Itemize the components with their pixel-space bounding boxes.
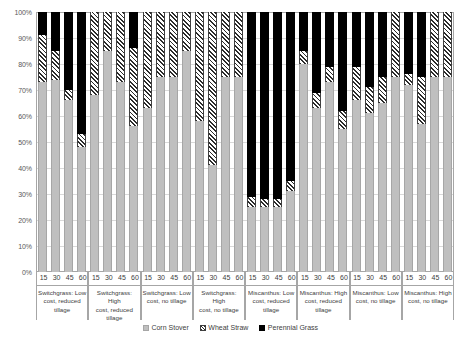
- bar-segment-stover: [338, 129, 347, 272]
- bar-segment-straw: [38, 35, 47, 82]
- bar-segment-straw: [260, 199, 269, 207]
- x-axis-group-label-line: Miscanthus: Low: [247, 289, 295, 297]
- legend-label: Wheat Straw: [208, 324, 248, 331]
- y-tick-label: 50%: [0, 139, 32, 146]
- x-tick-row: 15304560: [37, 272, 87, 286]
- x-tick-label: 30: [206, 274, 220, 281]
- bar-segment-straw: [378, 77, 387, 103]
- x-tick-label: 45: [324, 274, 338, 281]
- x-tick-row: 15304560: [351, 272, 401, 286]
- x-axis-group-label: Miscanthus: Lowcost, reducedtillage: [246, 286, 296, 314]
- bar-segment-stover: [365, 113, 374, 272]
- bar: [338, 12, 347, 272]
- legend-swatch-icon: [143, 325, 149, 331]
- bar-segment-stover: [169, 77, 178, 272]
- bar-segment-grass: [51, 12, 60, 51]
- bar: [430, 12, 439, 272]
- bar: [129, 12, 138, 272]
- legend-item[interactable]: Perennial Grass: [259, 324, 318, 331]
- bar: [103, 12, 112, 272]
- x-tick-label: 30: [154, 274, 168, 281]
- bar-segment-stover: [90, 95, 99, 272]
- x-tick-label: 30: [363, 274, 377, 281]
- x-axis-group: 15304560Miscanthus: Lowcost, reducedtill…: [245, 272, 297, 320]
- bar-segment-stover: [116, 82, 125, 272]
- x-tick-label: 45: [272, 274, 286, 281]
- bar-segment-grass: [260, 12, 269, 199]
- bar-segment-stover: [299, 64, 308, 272]
- x-tick-label: 45: [376, 274, 390, 281]
- bar-segment-stover: [182, 51, 191, 272]
- bar: [221, 12, 230, 272]
- x-axis-group-label-line: Miscanthus: High: [299, 289, 347, 297]
- x-tick-row: 15304560: [298, 272, 348, 286]
- bar-segment-stover: [208, 165, 217, 272]
- bar: [273, 12, 282, 272]
- bar-segment-straw: [182, 12, 191, 51]
- x-axis-group-label: Switchgrass: Highcost, reducedtillage: [89, 286, 139, 322]
- y-tick-label: 20%: [0, 217, 32, 224]
- bar-segment-straw: [195, 12, 204, 121]
- bar-segment-stover: [352, 100, 361, 272]
- x-axis-group-label-line: Switchgrass: High: [195, 289, 243, 306]
- bar-segment-stover: [38, 82, 47, 272]
- x-axis-group-label-line: cost, reduced: [90, 306, 138, 314]
- x-axis-group: 15304560Switchgrass: Lowcost, reducedtil…: [36, 272, 88, 320]
- bar: [325, 12, 334, 272]
- x-tick-label: 30: [311, 274, 325, 281]
- bar-segment-stover: [77, 147, 86, 272]
- x-axis-group: 15304560Miscanthus: Highcost, reducedtil…: [297, 272, 349, 320]
- chart-legend: Corn StoverWheat StrawPerennial Grass: [0, 324, 461, 331]
- bar-segment-grass: [286, 12, 295, 181]
- y-tick-label: 40%: [0, 165, 32, 172]
- bar-segment-straw: [404, 74, 413, 84]
- legend-swatch-icon: [259, 325, 265, 331]
- bar-segment-straw: [221, 12, 230, 77]
- x-axis-group: 15304560Switchgrass: Lowcost, no tillage: [141, 272, 193, 320]
- x-tick-row: 15304560: [194, 272, 244, 286]
- x-axis-group-label-line: tillage: [247, 306, 295, 314]
- bar-segment-grass: [247, 12, 256, 197]
- bar-segment-grass: [325, 12, 334, 67]
- x-axis-group-label-line: Miscanthus: High: [404, 289, 452, 297]
- bar-segment-straw: [64, 90, 73, 100]
- bar: [51, 12, 60, 272]
- bar-segment-grass: [299, 12, 308, 51]
- x-axis-group-label: Miscanthus: Highcost, no tillage: [403, 286, 453, 306]
- bar: [77, 12, 86, 272]
- x-axis-group: 15304560Miscanthus: Lowcost, no tillage: [350, 272, 402, 320]
- stacked-bar-chart: 0%10%20%30%40%50%60%70%80%90%100% 153045…: [0, 0, 461, 344]
- bar: [38, 12, 47, 272]
- bar: [64, 12, 73, 272]
- bar-segment-stover: [247, 207, 256, 272]
- y-tick-label: 10%: [0, 243, 32, 250]
- bar: [234, 12, 243, 272]
- legend-item[interactable]: Corn Stover: [143, 324, 189, 331]
- x-tick-label: 45: [115, 274, 129, 281]
- bar: [182, 12, 191, 272]
- bar: [378, 12, 387, 272]
- legend-item[interactable]: Wheat Straw: [200, 324, 249, 331]
- bar-segment-grass: [64, 12, 73, 90]
- bar-segment-straw: [116, 12, 125, 82]
- bars-layer: [36, 12, 454, 272]
- y-tick-label: 100%: [0, 9, 32, 16]
- x-tick-row: 15304560: [246, 272, 296, 286]
- x-tick-label: 30: [415, 274, 429, 281]
- bar-segment-straw: [299, 51, 308, 64]
- x-axis-group-label: Miscanthus: Lowcost, no tillage: [351, 286, 401, 306]
- bar-segment-grass: [365, 12, 374, 87]
- bar-segment-stover: [129, 126, 138, 272]
- bar-segment-grass: [77, 12, 86, 134]
- x-axis-group-label: Switchgrass: Highcost, no tillage: [194, 286, 244, 314]
- x-axis-group-label-line: cost, reduced: [299, 297, 347, 305]
- bar-segment-straw: [77, 134, 86, 147]
- bar-segment-stover: [430, 77, 439, 272]
- x-tick-label: 15: [402, 274, 416, 281]
- bar-segment-stover: [273, 207, 282, 272]
- y-tick-label: 0%: [0, 269, 32, 276]
- x-axis-group-label-line: tillage: [90, 314, 138, 322]
- bar-segment-straw: [51, 51, 60, 80]
- x-tick-label: 15: [246, 274, 260, 281]
- x-tick-label: 15: [37, 274, 51, 281]
